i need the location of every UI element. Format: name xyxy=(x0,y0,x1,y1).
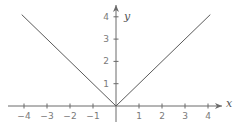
x-axis-label: x xyxy=(226,97,233,110)
x-tick-label: −4 xyxy=(17,111,31,121)
x-tick-label: 1 xyxy=(136,111,142,121)
x-tick-label: −1 xyxy=(86,111,99,121)
y-tick-label: 1 xyxy=(103,79,109,89)
y-axis-label: y xyxy=(123,10,131,23)
x-tick-label: 3 xyxy=(182,111,188,121)
y-tick-label: 2 xyxy=(103,56,109,66)
x-tick-label: −3 xyxy=(40,111,53,121)
x-tick-label: 4 xyxy=(205,111,211,121)
y-tick-label: 3 xyxy=(103,34,109,44)
y-tick-label: 4 xyxy=(103,12,109,22)
x-tick-label: −2 xyxy=(63,111,76,121)
absolute-value-graph: −4−3−2−11234 1234 x y xyxy=(0,0,244,127)
x-tick-label: 2 xyxy=(159,111,165,121)
